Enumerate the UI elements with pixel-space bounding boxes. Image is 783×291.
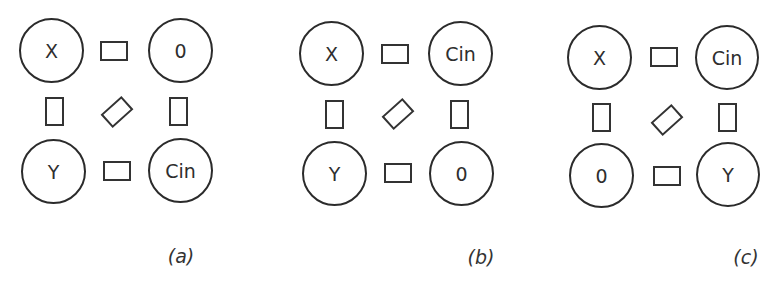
node-bottom-right: Cin bbox=[148, 138, 213, 203]
link-top-horizontal bbox=[650, 47, 678, 67]
node-top-left: X bbox=[299, 21, 364, 86]
link-right-vertical bbox=[718, 103, 737, 132]
link-top-horizontal bbox=[381, 44, 409, 64]
caption-a: (a) bbox=[168, 245, 194, 267]
node-top-left: X bbox=[19, 18, 84, 83]
link-left-vertical bbox=[325, 100, 344, 129]
link-left-vertical bbox=[592, 103, 611, 132]
node-bottom-left: Y bbox=[21, 139, 86, 204]
node-top-right: Cin bbox=[695, 25, 759, 90]
node-top-right: 0 bbox=[148, 18, 213, 83]
node-top-right: Cin bbox=[428, 21, 493, 86]
node-bottom-right: 0 bbox=[429, 141, 494, 206]
link-bottom-horizontal bbox=[384, 163, 412, 183]
caption-c: (c) bbox=[733, 246, 758, 268]
node-bottom-right: Y bbox=[696, 142, 760, 207]
node-bottom-left: Y bbox=[302, 141, 367, 206]
link-bottom-horizontal bbox=[103, 161, 131, 181]
link-bottom-horizontal bbox=[653, 166, 681, 186]
link-right-vertical bbox=[169, 97, 188, 126]
link-right-vertical bbox=[450, 100, 469, 129]
link-top-horizontal bbox=[100, 41, 128, 61]
link-diagonal bbox=[101, 96, 134, 128]
node-bottom-left: 0 bbox=[569, 143, 634, 208]
figure-canvas: X 0 Y Cin (a) X Cin Y 0 (b) X Cin 0 Y (c… bbox=[0, 0, 783, 291]
node-top-left: X bbox=[567, 25, 632, 90]
link-diagonal bbox=[382, 98, 415, 130]
link-diagonal bbox=[651, 104, 684, 136]
link-left-vertical bbox=[45, 97, 64, 126]
caption-b: (b) bbox=[468, 246, 495, 268]
